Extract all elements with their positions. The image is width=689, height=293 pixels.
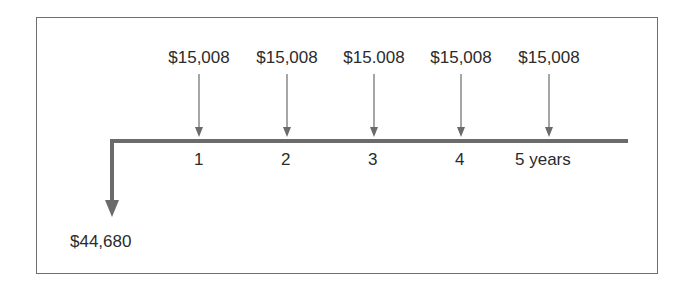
tick-label-3: 3 (368, 150, 377, 170)
payment-arrow-3 (370, 74, 378, 137)
payment-arrow-5 (545, 74, 553, 137)
initial-outflow-label: $44,680 (70, 232, 131, 252)
payment-label-1: $15,008 (168, 48, 229, 68)
payment-label-3: $15.008 (343, 48, 404, 68)
tick-label-2: 2 (281, 150, 290, 170)
payment-label-5: $15,008 (518, 48, 579, 68)
payment-arrow-2 (283, 74, 291, 137)
payment-label-4: $15,008 (430, 48, 491, 68)
payment-arrow-1 (195, 74, 203, 137)
payment-label-2: $15,008 (256, 48, 317, 68)
initial-outflow-arrowhead (105, 200, 119, 217)
payment-arrow-4 (457, 74, 465, 137)
tick-label-5: 5 years (515, 150, 571, 170)
tick-label-4: 4 (455, 150, 464, 170)
tick-label-1: 1 (194, 150, 203, 170)
